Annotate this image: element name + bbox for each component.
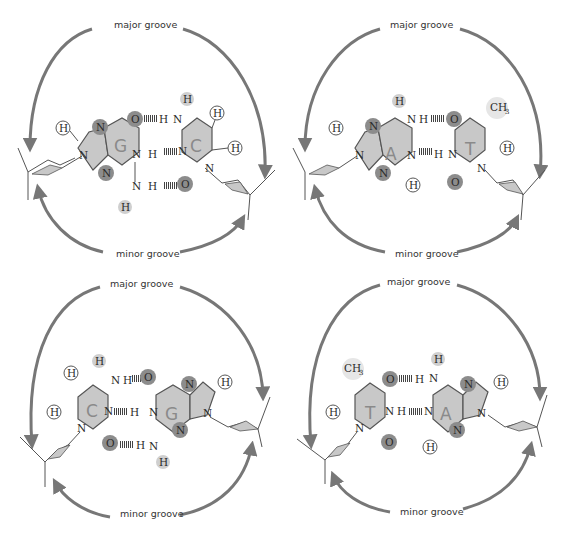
svg-text:N: N: [355, 149, 364, 161]
adenine: A N N N N N H H H H: [329, 94, 428, 192]
svg-text:H: H: [426, 441, 435, 453]
svg-text:H: H: [332, 122, 341, 134]
svg-text:H: H: [67, 367, 76, 379]
svg-text:N: N: [79, 149, 88, 161]
panel-cg: major groove minor groove C O N N H H N …: [20, 278, 270, 519]
base-letter-t: T: [364, 403, 376, 423]
base-letter-a: A: [440, 404, 452, 424]
svg-text:H: H: [159, 113, 168, 125]
thymine: T O O N N CH 3 H: [446, 97, 514, 190]
svg-text:H: H: [95, 355, 104, 367]
svg-text:H: H: [50, 406, 59, 418]
major-groove-label: major groove: [110, 278, 173, 289]
svg-text:3: 3: [505, 108, 509, 116]
sugar-right: [488, 395, 547, 447]
minor-groove-arrow-right: [180, 218, 243, 252]
svg-text:H: H: [415, 373, 424, 385]
panel-at: major groove minor groove A N N N N N H …: [293, 19, 545, 259]
svg-text:H: H: [183, 93, 192, 105]
svg-text:N: N: [407, 149, 416, 161]
svg-text:N: N: [379, 167, 388, 179]
svg-text:O: O: [131, 113, 140, 125]
svg-text:N: N: [203, 407, 212, 419]
major-groove-label: major groove: [114, 19, 177, 30]
svg-text:O: O: [144, 371, 153, 383]
svg-text:N: N: [173, 113, 182, 125]
minor-groove-label: minor groove: [400, 506, 464, 517]
base-pair-diagram: major groove minor groove G N N N O: [0, 0, 569, 534]
base-letter-g: G: [165, 404, 178, 424]
sugar-left: [18, 148, 82, 200]
minor-groove-arrow-right: [463, 445, 531, 509]
panel-ta: major groove minor groove T O O N H N CH…: [297, 276, 547, 517]
svg-text:N: N: [96, 121, 105, 133]
svg-text:N: N: [176, 424, 185, 436]
svg-text:H: H: [136, 439, 145, 451]
svg-text:N: N: [369, 120, 378, 132]
svg-text:O: O: [181, 178, 190, 190]
svg-text:O: O: [450, 113, 459, 125]
svg-text:H: H: [497, 376, 506, 388]
svg-text:O: O: [386, 373, 395, 385]
minor-groove-arrow-right: [457, 218, 517, 252]
svg-text:H: H: [159, 456, 168, 468]
svg-text:N: N: [102, 167, 111, 179]
cytosine: C O N N H N H H: [173, 92, 242, 192]
svg-text:N: N: [424, 405, 433, 417]
minor-groove-arrow-left: [38, 188, 103, 252]
svg-text:H: H: [213, 107, 222, 119]
svg-text:H: H: [130, 406, 139, 418]
svg-text:H: H: [221, 376, 230, 388]
svg-text:H: H: [397, 405, 406, 417]
svg-text:N: N: [464, 378, 473, 390]
panel-gc: major groove minor groove G N N N O: [18, 19, 275, 259]
sugar-right: [205, 168, 275, 220]
svg-text:O: O: [451, 176, 460, 188]
svg-text:H: H: [148, 180, 157, 192]
major-groove-label: major groove: [390, 19, 453, 30]
minor-groove-label: minor groove: [395, 248, 459, 259]
svg-text:H: H: [503, 142, 512, 154]
svg-text:N: N: [407, 113, 416, 125]
svg-text:H: H: [148, 148, 157, 160]
minor-groove-label: minor groove: [120, 508, 184, 519]
svg-text:N: N: [132, 148, 141, 160]
base-letter-g: G: [114, 136, 127, 156]
minor-groove-arrow-left: [333, 475, 390, 512]
thymine: T O O N H N CH 3 H: [326, 358, 406, 450]
svg-text:N: N: [149, 406, 158, 418]
base-letter-t: T: [464, 139, 476, 159]
svg-text:N: N: [178, 145, 187, 157]
svg-text:3: 3: [359, 369, 363, 377]
svg-text:H: H: [121, 201, 130, 213]
sugar-left: [20, 432, 80, 487]
svg-text:N: N: [453, 424, 462, 436]
major-groove-label: major groove: [387, 276, 450, 287]
minor-groove-arrow-left: [55, 482, 110, 517]
sugar-left: [293, 148, 357, 200]
sugar-left: [297, 432, 357, 484]
svg-text:N: N: [205, 162, 214, 174]
svg-text:H: H: [434, 148, 443, 160]
sugar-right: [485, 170, 545, 220]
svg-text:H: H: [59, 122, 68, 134]
svg-text:H: H: [231, 142, 240, 154]
svg-text:O: O: [106, 437, 115, 449]
svg-text:H: H: [329, 406, 338, 418]
svg-text:O: O: [385, 436, 394, 448]
svg-text:N: N: [429, 372, 438, 384]
base-letter-a: A: [385, 144, 397, 164]
svg-text:N: N: [111, 374, 120, 386]
svg-text:N: N: [448, 148, 457, 160]
svg-text:N: N: [149, 440, 158, 452]
svg-text:N: N: [77, 422, 86, 434]
minor-groove-label: minor groove: [116, 248, 180, 259]
svg-text:H: H: [395, 95, 404, 107]
sugar-right: [210, 397, 270, 447]
guanine: G O N N N N N H H: [140, 369, 232, 469]
base-letter-c: C: [86, 401, 98, 421]
adenine: A N N N N H N H H: [423, 352, 508, 454]
svg-text:N: N: [355, 422, 364, 434]
cytosine: C O N N H H N H H: [47, 354, 132, 451]
minor-groove-arrow-right: [180, 445, 252, 515]
